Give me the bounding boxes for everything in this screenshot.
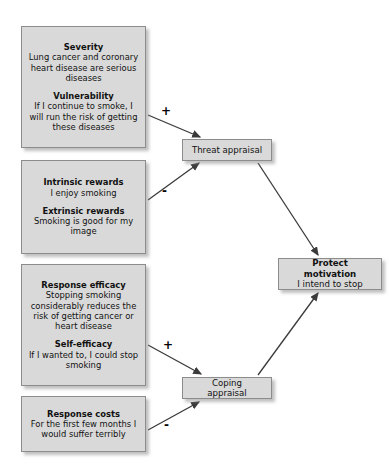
node-response-costs: Response costs For the first few months …: [21, 396, 146, 452]
node-coping-appraisal: Coping appraisal: [182, 377, 272, 399]
arrow-costs-to-coping-appraisal: [148, 402, 199, 430]
block-extrinsic-rewards: Extrinsic rewards Smoking is good for my…: [28, 206, 139, 237]
block-severity-title: Severity: [28, 42, 139, 52]
block-response-efficacy: Response efficacy Stopping smoking consi…: [28, 280, 139, 331]
node-rewards: Intrinsic rewards I enjoy smoking Extrin…: [21, 160, 146, 254]
block-response-costs: Response costs For the first few months …: [28, 409, 139, 440]
block-response-efficacy-text: Stopping smoking considerably reduces th…: [28, 290, 139, 331]
block-self-efficacy-title: Self-efficacy: [28, 339, 139, 349]
protection-motivation-diagram: Severity Lung cancer and coronary heart …: [0, 0, 390, 472]
edge-sign-costs-to-coping: -: [164, 419, 169, 431]
edge-sign-efficacy-to-coping: +: [163, 339, 173, 351]
block-severity-text: Lung cancer and coronary heart disease a…: [28, 52, 139, 83]
protect-motivation-title: Protect motivation: [287, 258, 373, 279]
arrow-threat-appraisal-to-protect-motivation: [258, 163, 318, 255]
arrow-severity-to-threat-appraisal: [148, 115, 200, 137]
arrow-rewards-to-threat-appraisal: [148, 163, 199, 200]
block-vulnerability-title: Vulnerability: [28, 91, 139, 101]
block-self-efficacy: Self-efficacy If I wanted to, I could st…: [28, 339, 139, 370]
node-threat-vulnerability: Severity Lung cancer and coronary heart …: [21, 26, 146, 148]
block-response-costs-text: For the first few months I would suffer …: [28, 419, 139, 440]
block-extrinsic-rewards-title: Extrinsic rewards: [28, 206, 139, 216]
edge-sign-rewards-to-threat: -: [162, 185, 167, 197]
node-efficacy: Response efficacy Stopping smoking consi…: [21, 264, 146, 386]
block-extrinsic-rewards-text: Smoking is good for my image: [28, 216, 139, 237]
node-threat-appraisal: Threat appraisal: [182, 139, 272, 161]
block-intrinsic-rewards: Intrinsic rewards I enjoy smoking: [43, 177, 123, 198]
block-self-efficacy-text: If I wanted to, I could stop smoking: [28, 350, 139, 371]
edge-sign-severity-to-threat: +: [161, 105, 171, 117]
block-vulnerability-text: If I continue to smoke, I will run the r…: [28, 101, 139, 132]
node-protect-motivation: Protect motivation I intend to stop: [278, 258, 382, 290]
arrow-coping-appraisal-to-protect-motivation: [258, 293, 318, 375]
block-intrinsic-rewards-text: I enjoy smoking: [43, 188, 123, 198]
block-response-efficacy-title: Response efficacy: [28, 280, 139, 290]
coping-appraisal-label: Coping appraisal: [191, 378, 263, 399]
block-response-costs-title: Response costs: [28, 409, 139, 419]
block-severity: Severity Lung cancer and coronary heart …: [28, 42, 139, 83]
protect-motivation-text: I intend to stop: [297, 279, 362, 289]
block-intrinsic-rewards-title: Intrinsic rewards: [43, 177, 123, 187]
block-vulnerability: Vulnerability If I continue to smoke, I …: [28, 91, 139, 132]
arrow-efficacy-to-coping-appraisal: [148, 345, 201, 374]
threat-appraisal-label: Threat appraisal: [192, 145, 262, 155]
